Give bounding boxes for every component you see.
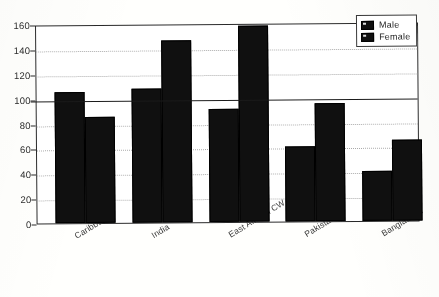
y-tick-label-40: 40	[3, 169, 31, 180]
y-tick-label-100: 100	[3, 95, 31, 106]
chart-screenshot: 160140120100806040200 CaribbeanIndiaEast…	[0, 0, 439, 297]
y-tick-label-60: 60	[3, 144, 31, 155]
bar-group	[54, 26, 116, 223]
bar-female	[85, 117, 116, 223]
plot-frame	[35, 22, 420, 224]
bar-group	[284, 24, 346, 221]
y-tick-label-160: 160	[2, 20, 30, 31]
y-tick-label-20: 20	[3, 194, 31, 205]
x-tick-label-india: India	[150, 222, 172, 241]
black-square-icon	[361, 20, 374, 29]
bar-male	[285, 147, 316, 222]
y-axis: 160140120100806040200	[0, 0, 438, 2]
y-tick-label-80: 80	[3, 119, 31, 130]
y-tick-label-0: 0	[4, 219, 32, 230]
bar-male	[55, 92, 86, 223]
legend-label: Male	[379, 20, 399, 30]
y-tick-mark-0	[32, 224, 37, 225]
bar-male	[131, 88, 162, 223]
chart-legend: MaleFemale	[356, 14, 417, 46]
bar-chart-figure: 160140120100806040200 CaribbeanIndiaEast…	[0, 0, 439, 297]
y-tick-label-120: 120	[2, 70, 30, 81]
bar-group	[131, 25, 193, 222]
y-tick-label-140: 140	[2, 45, 30, 56]
x-axis: CaribbeanIndiaEast African CWPakistanBan…	[0, 0, 438, 2]
black-square-icon	[361, 32, 374, 41]
bar-male	[362, 171, 392, 221]
bar-group	[208, 25, 270, 222]
legend-item-male[interactable]: Male	[361, 19, 410, 31]
bar-female	[315, 103, 346, 221]
legend-label: Female	[379, 32, 410, 42]
bar-female	[161, 41, 192, 223]
bar-female	[392, 140, 423, 221]
bar-male	[208, 109, 239, 222]
bar-female	[238, 25, 270, 222]
bar-group	[361, 23, 423, 220]
legend-item-female[interactable]: Female	[361, 31, 410, 43]
plot-area	[36, 23, 419, 223]
